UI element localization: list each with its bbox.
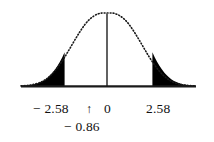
test-statistic-arrow-icon: ↑ (86, 100, 92, 118)
axis-tick-label-row: − 2.58 ↑ 0 2.58 (0, 100, 214, 120)
normal-curve-figure: − 2.58 ↑ 0 2.58 − 0.86 (0, 0, 214, 142)
bell-curve-outline (21, 13, 196, 86)
tick-label-positive-critical-value: 2.58 (146, 100, 170, 118)
normal-distribution-plot (0, 0, 214, 95)
right-tail-rejection-region-shade (152, 52, 196, 86)
test-statistic-value-label: − 0.86 (64, 118, 100, 136)
test-statistic-label-row: − 0.86 (0, 118, 214, 138)
tick-label-zero: 0 (104, 100, 111, 118)
tick-label-negative-critical-value: − 2.58 (33, 100, 69, 118)
